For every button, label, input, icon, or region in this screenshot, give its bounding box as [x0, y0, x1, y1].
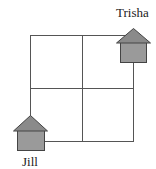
jill-house-icon: [14, 116, 48, 151]
grid-diagram: [0, 0, 156, 169]
trisha-label: Trisha: [116, 6, 149, 19]
jill-label: Jill: [22, 155, 38, 168]
trisha-house-icon: [117, 29, 151, 63]
grid: [31, 36, 134, 142]
